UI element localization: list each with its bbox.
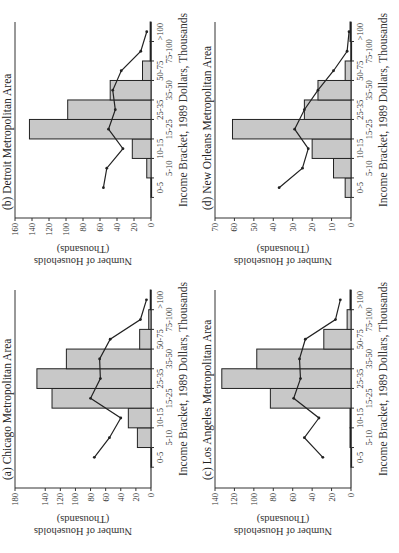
y-tick-label: 60 (101, 493, 111, 502)
line-point (346, 50, 349, 53)
panel-c: (c) Los Angeles Metropolitan Area0204060… (201, 281, 390, 537)
chart-title: (c) Los Angeles Metropolitan Area (201, 320, 214, 480)
bar (68, 100, 151, 119)
bar (147, 158, 151, 177)
bar (312, 139, 351, 158)
y-tick-label: 120 (229, 493, 239, 506)
line-point (107, 128, 110, 131)
x-tick-label: 75-100 (164, 39, 174, 63)
line-point (299, 377, 302, 380)
x-tick-label: 75-100 (364, 307, 374, 331)
bar (222, 369, 351, 389)
x-tick-label: >100 (355, 291, 365, 309)
y-axis-label-units: (Thousands) (256, 243, 309, 255)
x-tick-label: 15-25 (364, 388, 374, 408)
x-tick-label: 15-25 (164, 119, 174, 139)
y-tick-label: 20 (307, 223, 317, 232)
y-axis-label: Number of Households (34, 256, 132, 267)
bar (151, 448, 152, 468)
y-tick-label: 80 (86, 493, 96, 502)
bar (351, 448, 352, 468)
x-axis-label: Income Bracket, 1989 Dollars, Thousands (377, 281, 390, 475)
x-tick-label: 0-5 (155, 452, 165, 463)
y-tick-label: 30 (288, 223, 298, 232)
y-tick-label: 60 (288, 493, 298, 502)
y-tick-label: 40 (116, 493, 126, 502)
bar (350, 290, 351, 310)
y-tick-label: 120 (55, 493, 65, 506)
bar (143, 61, 152, 80)
panel-a: (a) Chicago Metropolitan Area02040608010… (1, 281, 190, 537)
line-point (292, 397, 295, 400)
chart-title: (d) New Orleans Metropolitan Area (201, 46, 214, 210)
y-tick-label: 120 (44, 223, 54, 236)
line-point (339, 298, 342, 301)
x-tick-label: 10-15 (355, 408, 365, 428)
line-point (145, 30, 148, 33)
x-tick-label: >100 (155, 23, 165, 41)
x-tick-label: 5-10 (364, 430, 374, 446)
bar (132, 139, 151, 158)
bar (345, 61, 351, 80)
line-point (89, 397, 92, 400)
x-tick-label: 75-100 (164, 307, 174, 331)
x-tick-label: 50-75 (155, 61, 165, 81)
y-tick-label: 20 (131, 493, 141, 502)
y-axis-label: Number of Households (234, 256, 332, 267)
y-axis-label-units: (Thousands) (56, 243, 109, 255)
line-point (119, 417, 122, 420)
x-tick-label: 10-15 (155, 408, 165, 428)
line-point (307, 147, 310, 150)
y-tick-label: 20 (327, 493, 337, 502)
line-point (303, 436, 306, 439)
line-point (301, 167, 304, 170)
bar (137, 428, 151, 448)
y-axis-label: Number of Households (34, 526, 132, 537)
x-axis-label: Income Bracket, 1989 Dollars, Thousands (177, 281, 190, 475)
bar (257, 349, 351, 369)
bar (149, 310, 151, 330)
line-point (303, 108, 306, 111)
line-point (139, 50, 142, 53)
line-point (334, 318, 337, 321)
line-point (120, 69, 123, 72)
y-tick-label: 140 (27, 223, 37, 236)
line-point (139, 318, 142, 321)
y-axis-label-units: (Thousands) (56, 513, 109, 525)
line-point (114, 108, 117, 111)
x-tick-label: >100 (155, 291, 165, 309)
line-point (298, 358, 301, 361)
figure: (a) Chicago Metropolitan Area02040608010… (0, 0, 399, 553)
x-tick-label: 5-10 (364, 160, 374, 176)
y-tick-label: 10 (327, 223, 337, 232)
line-point (108, 436, 111, 439)
y-tick-label: 60 (229, 223, 239, 232)
y-tick-label: 40 (268, 223, 278, 232)
bar (350, 408, 351, 428)
x-tick-label: 0-5 (355, 182, 365, 193)
y-tick-label: 50 (249, 223, 259, 232)
line-point (321, 456, 324, 459)
y-tick-label: 100 (249, 493, 259, 506)
figure-svg: (a) Chicago Metropolitan Area02040608010… (0, 0, 399, 553)
line-point (145, 298, 148, 301)
x-tick-label: 5-10 (164, 160, 174, 176)
x-tick-label: 25-35 (355, 369, 365, 389)
bar (232, 119, 351, 138)
panel-d: (d) New Orleans Metropolitan Area0102030… (201, 12, 390, 267)
x-tick-label: 50-75 (355, 61, 365, 81)
bar (66, 349, 151, 369)
bar (150, 290, 151, 310)
y-tick-label: 0 (146, 493, 156, 497)
x-tick-label: 25-35 (155, 369, 165, 389)
x-axis-label: Income Bracket, 1989 Dollars, Thousands (377, 12, 390, 206)
line-point (109, 338, 112, 341)
x-tick-label: 35-50 (164, 349, 174, 369)
bar (304, 100, 351, 119)
x-tick-label: 25-35 (155, 100, 165, 120)
y-tick-label: 40 (112, 223, 122, 232)
bar (151, 178, 152, 197)
y-tick-label: 140 (210, 493, 220, 506)
x-tick-label: 75-100 (364, 39, 374, 63)
x-tick-label: 50-75 (355, 329, 365, 349)
